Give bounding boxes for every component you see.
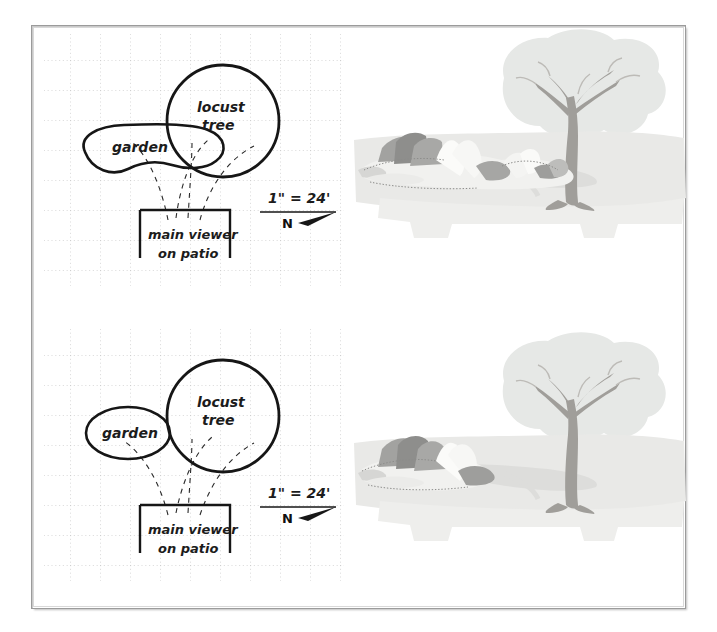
design-sheet: garden locust tree main viewer on patio … bbox=[0, 0, 717, 632]
locust-tree-label-line1-bottom: locust bbox=[197, 394, 246, 410]
viewer-label-line2-top: on patio bbox=[158, 246, 218, 261]
sky-canopy-mass-top bbox=[503, 29, 666, 138]
garden-label-top: garden bbox=[112, 139, 168, 155]
north-label-bottom: N bbox=[282, 511, 293, 526]
scale-text-bottom: 1" = 24' bbox=[268, 485, 330, 501]
locust-tree-label-line2-bottom: tree bbox=[202, 412, 235, 428]
plan-view-bottom: garden locust tree main viewer on patio … bbox=[40, 325, 350, 587]
garden-label-bottom: garden bbox=[102, 425, 158, 441]
plan-view-top: garden locust tree main viewer on patio … bbox=[40, 30, 350, 292]
viewer-label-line1-top: main viewer bbox=[148, 227, 239, 242]
viewer-label-line2-bottom: on patio bbox=[158, 541, 218, 556]
scale-text-top: 1" = 24' bbox=[268, 190, 330, 206]
perspective-view-bottom bbox=[352, 323, 690, 595]
locust-tree-label-line1-top: locust bbox=[197, 99, 246, 115]
viewer-label-line1-bottom: main viewer bbox=[148, 522, 239, 537]
north-label-top: N bbox=[282, 216, 293, 231]
locust-tree-label-line2-top: tree bbox=[202, 117, 235, 133]
perspective-view-top bbox=[352, 20, 690, 292]
sky-canopy-mass-bottom bbox=[503, 332, 666, 441]
